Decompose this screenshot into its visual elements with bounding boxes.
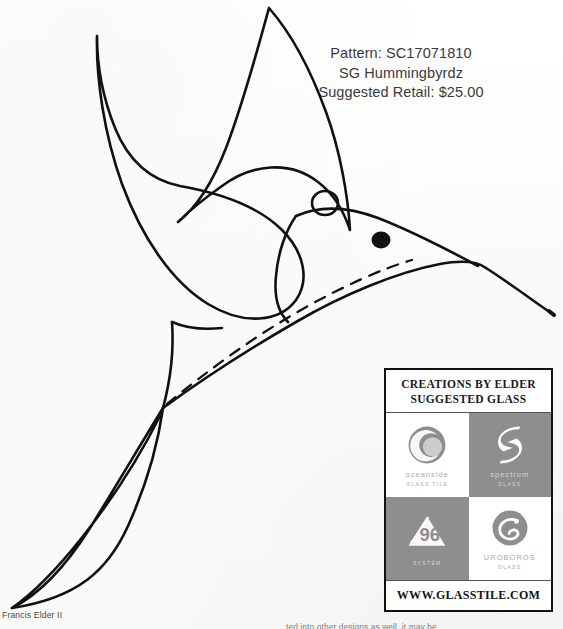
tail-body-joint	[163, 322, 173, 408]
wing-body-joint	[172, 322, 222, 329]
spectrum-subtext: GLASS	[490, 480, 529, 488]
lower-wing-outline	[97, 36, 304, 319]
oceanside-wordmark: oceanside GLASS TILE	[405, 471, 449, 488]
logo-cell-uroboros: UROBOROS GLASS	[469, 497, 552, 581]
glass-box-title: CREATIONS BY ELDER SUGGESTED GLASS	[386, 370, 551, 413]
logo-cell-spectrum: spectrum GLASS	[469, 413, 552, 497]
uroboros-wordmark-text: UROBOROS	[484, 553, 536, 562]
beak-outline	[486, 268, 551, 313]
hanging-loop	[312, 191, 338, 215]
uroboros-wordmark: UROBOROS GLASS	[484, 554, 536, 571]
glass-box-url[interactable]: WWW.GLASSTILE.COM	[386, 581, 551, 610]
oceanside-subtext: GLASS TILE	[405, 480, 449, 488]
eye-icon	[372, 232, 391, 249]
system96-wordmark: SYSTEM	[413, 558, 442, 567]
glass-box-title-line-1: CREATIONS BY ELDER	[401, 378, 536, 390]
svg-text:96: 96	[420, 524, 440, 545]
suggested-glass-box: CREATIONS BY ELDER SUGGESTED GLASS ocean…	[384, 368, 553, 612]
logo-cell-oceanside: oceanside GLASS TILE	[386, 413, 469, 497]
spectrum-s-ribbon-icon	[487, 422, 533, 468]
spectrum-wordmark-text: spectrum	[490, 470, 529, 479]
throat-outline	[276, 216, 297, 322]
glass-logo-grid: oceanside GLASS TILE spectrum GLASS	[386, 413, 551, 581]
uroboros-snake-circle-icon	[487, 505, 533, 551]
system96-triangle-icon: 96	[404, 509, 450, 555]
logo-cell-system96: 96 SYSTEM	[386, 497, 469, 581]
oceanside-wordmark-text: oceanside	[405, 470, 449, 479]
system96-subtext: SYSTEM	[413, 559, 442, 567]
footer-note: ted into other designs as well, it may b…	[286, 622, 437, 629]
spectrum-wordmark: spectrum GLASS	[490, 471, 529, 488]
uroboros-subtext: GLASS	[484, 563, 536, 571]
tail-inner-edge	[12, 408, 163, 608]
pattern-sheet-page: Pattern: SC17071810 SG Hummingbyrdz Sugg…	[0, 0, 563, 629]
upper-wing-outline	[178, 8, 350, 230]
glass-box-title-line-2: SUGGESTED GLASS	[410, 393, 526, 405]
footer-author: Francis Elder II	[2, 610, 62, 620]
beak-tip	[549, 311, 554, 315]
oceanside-crescent-icon	[404, 422, 450, 468]
dashed-breast-line	[167, 260, 412, 404]
